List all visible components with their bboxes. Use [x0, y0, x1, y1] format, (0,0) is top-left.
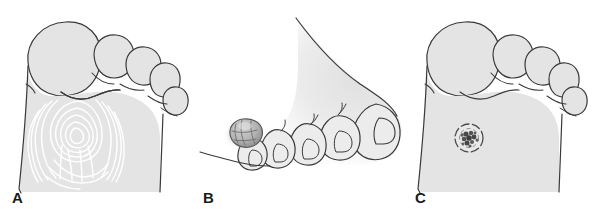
sole-lateral-border: [160, 114, 163, 192]
panel-b-illustration: [190, 0, 405, 209]
sole-lateral-border: [559, 114, 562, 192]
panel-c: C: [395, 0, 596, 209]
hallux-pad: [28, 22, 101, 96]
panel-a-illustration: [0, 0, 200, 209]
panel-label-c: C: [415, 190, 426, 205]
panel-b: B: [190, 0, 405, 209]
figure-plantar-lesion-comparison: A: [0, 0, 596, 209]
hallux-pad: [427, 22, 500, 96]
panel-c-illustration: [395, 0, 596, 209]
panel-label-a: A: [12, 190, 23, 205]
lesion-highlight: [238, 122, 252, 130]
fifth-toe-pad: [163, 87, 188, 115]
second-toe: [320, 116, 360, 160]
panel-label-b: B: [203, 190, 214, 205]
panel-a: A: [0, 0, 200, 209]
fifth-toe-pad: [562, 87, 587, 115]
